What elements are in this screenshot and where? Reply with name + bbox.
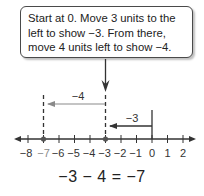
callout-pointer-arrow	[102, 59, 110, 92]
tick-label: −3	[98, 147, 111, 159]
tick-label: −4	[83, 147, 96, 159]
tick-label: −1	[129, 147, 142, 159]
point-neg3	[103, 136, 108, 141]
label-minus-3: −3	[126, 112, 139, 124]
point-neg7	[41, 136, 46, 141]
tick-label: −6	[52, 147, 65, 159]
tick-label: 1	[164, 147, 170, 159]
label-minus-4: −4	[72, 90, 85, 102]
equation: −3 − 4 = −7	[0, 168, 204, 186]
tick-label: −8	[20, 147, 33, 159]
tick-label: −5	[67, 147, 80, 159]
tick-label: −2	[114, 147, 127, 159]
number-line-diagram: −4 −3 −8 −7 −6 −5 −4 −3 −2 −1 0 1 2	[0, 0, 204, 196]
tick-label-highlight: −7	[37, 147, 50, 159]
tick-label: 0	[149, 147, 155, 159]
tick-label: 2	[180, 147, 186, 159]
